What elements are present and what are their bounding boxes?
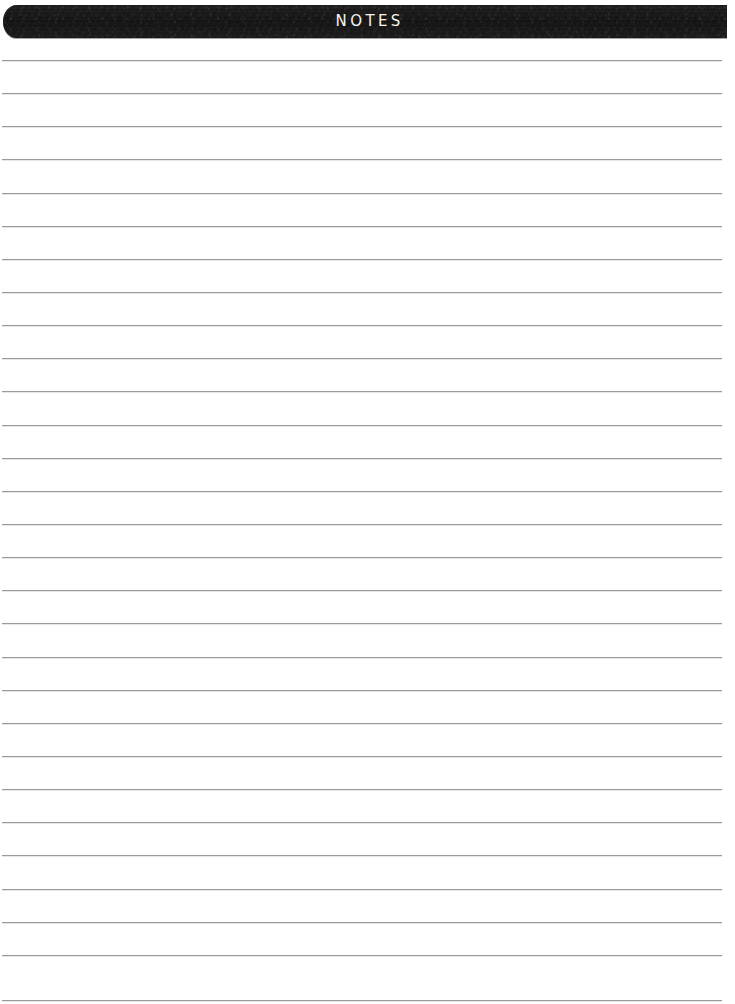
- rule-line: [2, 524, 722, 525]
- rule-line: [2, 325, 722, 326]
- notes-header-bar: NOTES: [3, 5, 727, 38]
- page-title: NOTES: [6, 5, 730, 38]
- rule-line: [2, 292, 722, 293]
- rule-line: [2, 657, 722, 658]
- notes-page: NOTES: [0, 0, 735, 1004]
- rule-line: [2, 358, 722, 359]
- rule-line: [2, 822, 722, 823]
- rule-line: [2, 458, 722, 459]
- rule-line: [2, 226, 722, 227]
- rule-line: [2, 60, 722, 61]
- ruled-lines-area: [0, 0, 735, 1004]
- rule-line: [2, 922, 722, 923]
- rule-line: [2, 955, 722, 956]
- rule-line: [2, 391, 722, 392]
- rule-line: [2, 1000, 722, 1001]
- rule-line: [2, 159, 722, 160]
- rule-line: [2, 889, 722, 890]
- rule-line: [2, 126, 722, 127]
- rule-line: [2, 855, 722, 856]
- rule-line: [2, 789, 722, 790]
- rule-line: [2, 259, 722, 260]
- rule-line: [2, 93, 722, 94]
- rule-line: [2, 723, 722, 724]
- rule-line: [2, 491, 722, 492]
- rule-line: [2, 590, 722, 591]
- rule-line: [2, 425, 722, 426]
- rule-line: [2, 623, 722, 624]
- rule-line: [2, 557, 722, 558]
- rule-line: [2, 756, 722, 757]
- rule-line: [2, 690, 722, 691]
- rule-line: [2, 193, 722, 194]
